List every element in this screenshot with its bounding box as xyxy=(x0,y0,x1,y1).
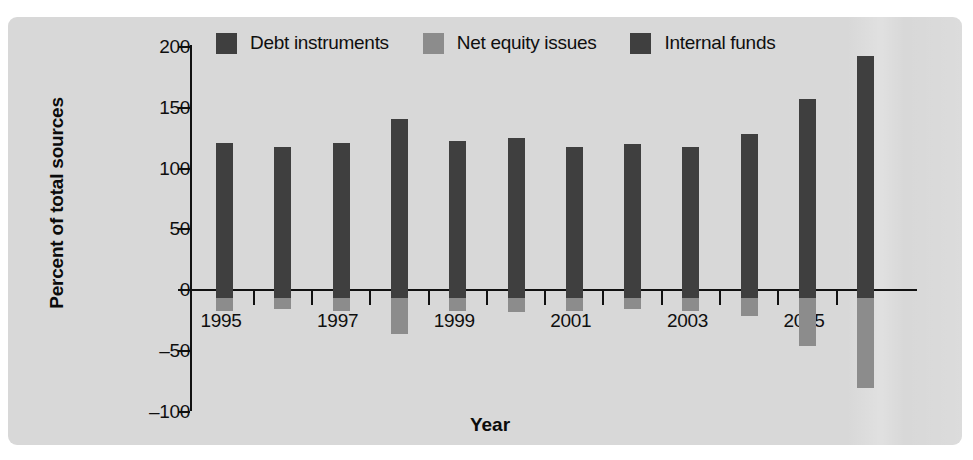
bar-positive-sources xyxy=(566,147,583,298)
y-axis-tick-label: 0 xyxy=(130,280,190,299)
legend-item: Debt instruments xyxy=(216,30,423,56)
legend-item: Net equity issues xyxy=(423,30,631,56)
legend-label: Debt instruments xyxy=(250,32,389,54)
x-axis-tick-label: 1997 xyxy=(317,310,358,332)
x-axis-tick xyxy=(602,291,604,305)
x-axis-tick-label: 2003 xyxy=(667,310,708,332)
bar-positive-sources xyxy=(449,141,466,298)
y-axis-title: Percent of total sources xyxy=(46,93,68,313)
x-axis-tick xyxy=(661,291,663,305)
figure: Debt instrumentsNet equity issuesInterna… xyxy=(0,0,973,460)
plot-area: Debt instrumentsNet equity issuesInterna… xyxy=(0,0,973,460)
y-axis-tick-label: 150 xyxy=(130,98,190,117)
chart-legend: Debt instrumentsNet equity issuesInterna… xyxy=(216,30,809,56)
legend-swatch-icon xyxy=(630,33,651,54)
x-axis-tick xyxy=(777,291,779,305)
y-axis-tick-label: 200 xyxy=(130,37,190,56)
y-axis-tick-label: 50 xyxy=(130,219,190,238)
y-axis-tick-label: 100 xyxy=(130,159,190,178)
x-axis-tick-label: 1999 xyxy=(434,310,475,332)
legend-swatch-icon xyxy=(423,33,444,54)
bar-positive-sources xyxy=(857,56,874,298)
bar-positive-sources xyxy=(682,147,699,298)
x-axis-tick xyxy=(486,291,488,305)
y-axis-line xyxy=(190,45,192,411)
y-axis-tick-label: –50 xyxy=(130,341,190,360)
legend-label: Net equity issues xyxy=(457,32,597,54)
bar-positive-sources xyxy=(741,134,758,298)
x-axis-tick xyxy=(544,291,546,305)
x-axis-tick xyxy=(836,291,838,305)
x-axis-tick xyxy=(253,291,255,305)
bar-positive-sources xyxy=(216,143,233,298)
x-axis-tick xyxy=(719,291,721,305)
y-axis-tick-label: –100 xyxy=(130,402,190,421)
x-axis-tick xyxy=(428,291,430,305)
legend-item: Internal funds xyxy=(630,30,809,56)
bar-positive-sources xyxy=(391,119,408,298)
legend-label: Internal funds xyxy=(664,32,775,54)
bar-positive-sources xyxy=(274,147,291,298)
bar-positive-sources xyxy=(799,99,816,298)
x-axis-title: Year xyxy=(420,414,560,436)
bar-positive-sources xyxy=(333,143,350,298)
x-axis-tick xyxy=(311,291,313,305)
x-axis-tick-label: 1995 xyxy=(201,310,242,332)
x-axis-tick xyxy=(369,291,371,305)
legend-swatch-icon xyxy=(216,33,237,54)
x-axis-tick-label: 2001 xyxy=(550,310,591,332)
bar-positive-sources xyxy=(508,138,525,298)
bar-positive-sources xyxy=(624,144,641,298)
